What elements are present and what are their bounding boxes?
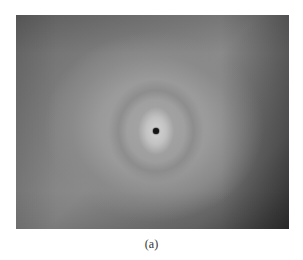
halo-photograph (16, 15, 289, 229)
vignette-shading (16, 15, 289, 229)
figure: (a) (0, 0, 303, 260)
figure-caption: (a) (0, 237, 303, 251)
central-dark-spot (153, 128, 159, 134)
